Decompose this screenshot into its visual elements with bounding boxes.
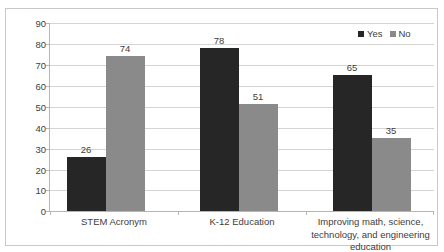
category-label-improving-education-line2: technology, and engineering bbox=[304, 229, 437, 242]
bar-value-stem-acronym-yes: 26 bbox=[64, 145, 108, 155]
category-label-improving-education-line1: Improving math, science, bbox=[304, 216, 437, 229]
category-tick-1 bbox=[178, 211, 179, 215]
y-tick-label-80: 80 bbox=[10, 40, 46, 50]
y-tick-label-70: 70 bbox=[10, 61, 46, 71]
y-axis: 90 80 70 60 50 40 30 20 10 0 bbox=[6, 23, 46, 212]
bar-value-improving-education-yes: 65 bbox=[330, 63, 374, 73]
legend-entry-no[interactable]: No bbox=[390, 29, 411, 39]
y-tick-label-60: 60 bbox=[10, 82, 46, 92]
category-label-stem-acronym-line1: STEM Acronym bbox=[50, 216, 178, 229]
category-tick-2 bbox=[306, 211, 307, 215]
legend-label-yes: Yes bbox=[367, 29, 383, 39]
bar-value-improving-education-no: 35 bbox=[369, 126, 413, 136]
bar-improving-education-yes[interactable] bbox=[333, 75, 372, 211]
bar-k12-education-yes[interactable] bbox=[200, 48, 239, 211]
legend: Yes No bbox=[358, 29, 411, 39]
category-tick-end bbox=[433, 211, 434, 215]
category-label-stem-acronym: STEM Acronym bbox=[50, 216, 178, 229]
bar-value-stem-acronym-no: 74 bbox=[103, 44, 147, 54]
gridline-90 bbox=[50, 23, 434, 24]
y-tick-label-30: 30 bbox=[10, 145, 46, 155]
bar-k12-education-no[interactable] bbox=[239, 104, 278, 211]
plot-area: 26 74 78 51 65 35 bbox=[50, 23, 434, 211]
legend-entry-yes[interactable]: Yes bbox=[358, 29, 383, 39]
category-label-k12-education-line1: K-12 Education bbox=[178, 216, 306, 229]
y-tick-label-0: 0 bbox=[10, 207, 46, 217]
y-tick-label-50: 50 bbox=[10, 103, 46, 113]
bar-value-k12-education-yes: 78 bbox=[197, 36, 241, 46]
legend-swatch-no-icon bbox=[390, 31, 396, 37]
y-tick-label-90: 90 bbox=[10, 19, 46, 29]
category-label-improving-education: Improving math, science, technology, and… bbox=[304, 216, 437, 252]
bar-improving-education-no[interactable] bbox=[372, 138, 411, 211]
y-tick-label-20: 20 bbox=[10, 166, 46, 176]
bar-stem-acronym-yes[interactable] bbox=[67, 157, 106, 211]
legend-swatch-yes-icon bbox=[358, 31, 364, 37]
gridline-baseline bbox=[50, 211, 434, 212]
category-tick-start bbox=[50, 211, 51, 215]
category-label-k12-education: K-12 Education bbox=[178, 216, 306, 229]
bar-stem-acronym-no[interactable] bbox=[106, 56, 145, 211]
y-tick-label-10: 10 bbox=[10, 186, 46, 196]
category-label-improving-education-line3: education bbox=[304, 241, 437, 252]
y-tick-label-40: 40 bbox=[10, 124, 46, 134]
legend-label-no: No bbox=[399, 29, 411, 39]
bar-value-k12-education-no: 51 bbox=[236, 92, 280, 102]
chart-container: 90 80 70 60 50 40 30 20 10 0 bbox=[5, 8, 438, 246]
